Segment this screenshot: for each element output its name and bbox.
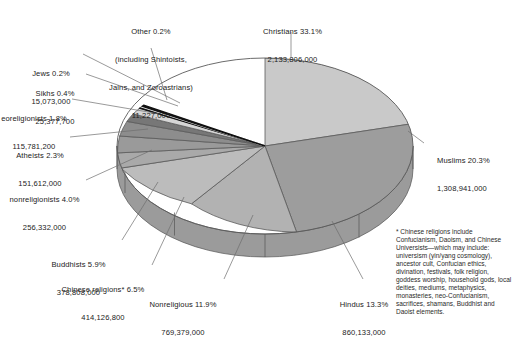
label-jews-line2: 15,073,000 bbox=[18, 97, 84, 106]
chinese-religions-footnote: * Chinese religions include Confucianism… bbox=[396, 228, 512, 316]
label-jews: Jews 0.2% 15,073,000 bbox=[18, 50, 84, 125]
label-other-line1: Other 0.2% bbox=[79, 27, 223, 36]
label-jews-line1: Jews 0.2% bbox=[18, 69, 84, 78]
label-atheists-line2: 151,612,000 bbox=[6, 179, 74, 188]
label-muslims-line2: 1,308,941,000 bbox=[437, 184, 513, 193]
label-hindus-line2: 860,133,000 bbox=[320, 328, 408, 337]
label-buddhists-line2: 378,808,000 bbox=[36, 288, 121, 297]
label-buddhists: Buddhists 5.9% 378,808,000 bbox=[36, 241, 121, 316]
label-christians-line2: 2,133,806,000 bbox=[235, 55, 350, 64]
label-muslims: Muslims 20.3% 1,308,941,000 bbox=[437, 137, 513, 212]
label-other: Other 0.2% (including Shintoists, Jains,… bbox=[79, 8, 223, 140]
label-hindus-line1: Hindus 13.3% bbox=[320, 300, 408, 309]
label-other-line3: Jains, and Zoroastrians) bbox=[79, 83, 223, 92]
label-christians-line1: Christians 33.1% bbox=[235, 27, 350, 36]
label-christians: Christians 33.1% 2,133,806,000 bbox=[235, 8, 350, 83]
label-buddhists-line1: Buddhists 5.9% bbox=[36, 260, 121, 269]
label-hindus: Hindus 13.3% 860,133,000 bbox=[320, 281, 408, 340]
label-other-line4: 11,227,000 bbox=[79, 111, 223, 120]
label-nonreligionists-line2: 256,332,000 bbox=[2, 223, 87, 232]
label-muslims-line1: Muslims 20.3% bbox=[437, 156, 513, 165]
label-other-line2: (including Shintoists, bbox=[79, 55, 223, 64]
